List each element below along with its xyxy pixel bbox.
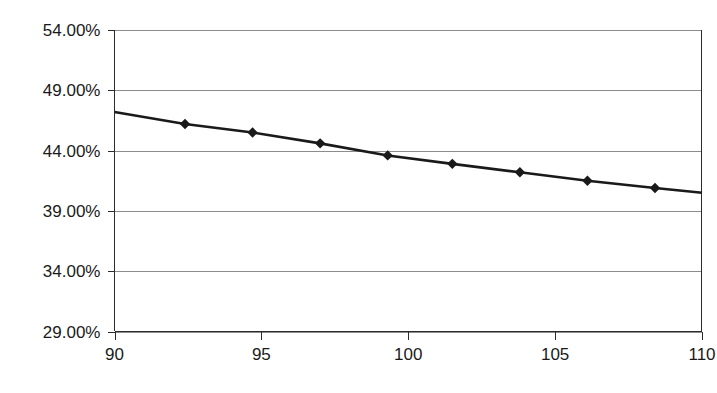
data-point-marker [247, 127, 257, 137]
y-axis-tick-label: 49.00% [43, 81, 101, 100]
data-point-marker [650, 183, 660, 193]
y-axis-tick-label: 54.00% [43, 21, 101, 40]
chart-screenshot: 54.00%49.00%44.00%39.00%34.00%29.00% 909… [0, 0, 717, 393]
data-point-marker [180, 119, 190, 129]
data-point-marker [315, 138, 325, 148]
gridlines-group [115, 31, 703, 333]
y-axis-tick-label: 39.00% [43, 202, 101, 221]
line-chart-figure: 54.00%49.00%44.00%39.00%34.00%29.00% 909… [0, 0, 717, 393]
x-axis-tick-label: 100 [394, 345, 422, 364]
chart-canvas: 54.00%49.00%44.00%39.00%34.00%29.00% 909… [0, 0, 717, 393]
y-axis-tick-label: 34.00% [43, 262, 101, 281]
x-axis-tick-label: 110 [688, 345, 715, 364]
data-point-marker [447, 159, 457, 169]
y-axis-tick-label: 29.00% [43, 323, 101, 342]
y-tick-marks-group [108, 31, 115, 333]
data-point-marker [582, 176, 592, 186]
y-axis-tick-label: 44.00% [43, 142, 101, 161]
series-line-series-1 [115, 112, 703, 193]
x-axis-tick-label: 95 [252, 345, 271, 364]
data-series-group [115, 112, 703, 193]
x-axis-tick-label: 105 [541, 345, 569, 364]
data-point-marker [515, 167, 525, 177]
x-axis-tick-label: 90 [105, 345, 124, 364]
y-tick-labels-group: 54.00%49.00%44.00%39.00%34.00%29.00% [43, 21, 101, 342]
x-tick-labels-group: 9095100105110 [105, 345, 716, 364]
